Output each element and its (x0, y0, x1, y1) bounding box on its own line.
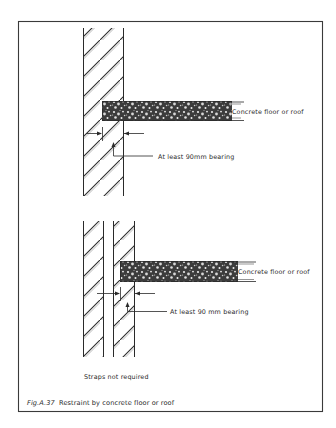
diagram-figure: Concrete floor or roof At least 90mm bea… (0, 0, 336, 428)
figure-number: Fig.A.37 (27, 399, 56, 407)
cavity-wall-inner-leaf (113, 221, 135, 357)
concrete-slab (102, 101, 244, 121)
bearing-label-top: At least 90mm bearing (158, 153, 234, 161)
bearing-label-bottom: At least 90 mm bearing (170, 308, 249, 316)
figure-frame (19, 22, 323, 412)
figure-caption: Fig.A.37 Restraint by concrete floor or … (27, 399, 175, 407)
slab-label-bottom: Concrete floor or roof (238, 268, 310, 276)
figure-caption-text: Restraint by concrete floor or roof (59, 399, 175, 407)
straps-note: Straps not required (84, 373, 149, 381)
cavity-wall-outer-leaf (83, 221, 104, 357)
concrete-slab-bottom (120, 261, 256, 282)
slab-label-top: Concrete floor or roof (232, 108, 304, 116)
bottom-diagram: Concrete floor or roof At least 90 mm be… (83, 221, 310, 381)
top-diagram: Concrete floor or roof At least 90mm bea… (83, 28, 304, 196)
